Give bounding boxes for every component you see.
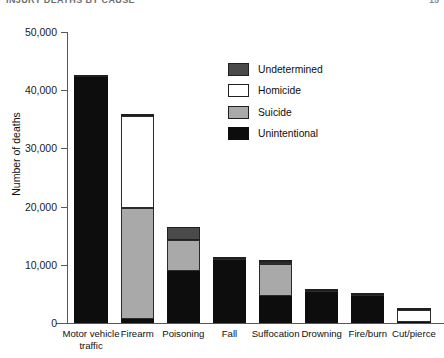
y-axis-tick-label: 10,000: [25, 259, 57, 271]
bar-segment-homicide: [259, 262, 292, 264]
bar-segment-undetermined: [121, 114, 154, 116]
bar-segment-unintentional: [305, 292, 338, 323]
y-axis-tick: [61, 265, 67, 266]
header-title: INJURY DEATHS BY CAUSE: [6, 0, 135, 5]
legend-swatch-homicide: [228, 84, 249, 97]
bar-segment-unintentional: [74, 77, 107, 323]
bar-segment-unintentional: [121, 319, 154, 323]
y-axis-tick-label: 50,000: [25, 26, 57, 38]
legend-swatch-undetermined: [228, 63, 249, 76]
bar-segment-suicide: [259, 264, 292, 296]
legend-label: Undetermined: [258, 64, 323, 75]
legend-item-undetermined: Undetermined: [228, 62, 323, 76]
bar-segment-unintentional: [351, 296, 384, 323]
x-axis-line: [56, 323, 444, 324]
legend-swatch-unintentional: [228, 127, 249, 140]
legend-swatch-suicide: [228, 106, 249, 119]
legend-label: Homicide: [258, 85, 301, 96]
bar-segment-homicide: [121, 116, 154, 209]
y-axis-tick-label: 40,000: [25, 84, 57, 96]
bar-poisoning: [167, 32, 200, 323]
bar-segment-undetermined: [167, 227, 200, 240]
legend-item-homicide: Homicide: [228, 84, 323, 98]
y-axis-tick: [61, 90, 67, 91]
bar-segment-unintentional: [213, 260, 246, 323]
y-axis-tick: [61, 148, 67, 149]
legend-item-unintentional: Unintentional: [228, 127, 323, 141]
bar-segment-undetermined: [259, 260, 292, 262]
y-axis-tick-label: 0: [51, 317, 57, 329]
bar-segment-suicide: [121, 208, 154, 319]
bar-segment-unintentional: [167, 271, 200, 323]
bar-segment-undetermined: [305, 289, 338, 291]
bar-firearm: [121, 32, 154, 323]
legend-label: Unintentional: [258, 128, 318, 139]
bar-motor-vehicle-traffic: [74, 32, 107, 323]
y-axis-tick: [61, 32, 67, 33]
bar-fire-burn: [351, 32, 384, 323]
header-page-number: 15: [429, 0, 439, 5]
bar-cut-pierce: [397, 32, 430, 323]
y-axis-title: Number of deaths: [10, 94, 22, 214]
y-axis-tick-label: 20,000: [25, 201, 57, 213]
bar-segment-unintentional: [259, 296, 292, 323]
bar-segment-undetermined: [397, 308, 430, 310]
y-axis-tick: [61, 323, 67, 324]
bar-segment-undetermined: [351, 293, 384, 295]
bar-segment-undetermined: [74, 75, 107, 77]
chart-legend: UndeterminedHomicideSuicideUnintentional: [228, 62, 323, 148]
y-axis-tick: [61, 207, 67, 208]
legend-label: Suicide: [258, 107, 292, 118]
injury-deaths-bar-chart-figure: INJURY DEATHS BY CAUSE 15 Number of deat…: [0, 0, 444, 358]
bar-segment-undetermined: [213, 257, 246, 259]
bar-segment-homicide: [397, 310, 430, 322]
legend-item-suicide: Suicide: [228, 105, 323, 119]
x-axis-label: Cut/pierce: [385, 328, 443, 340]
running-header: INJURY DEATHS BY CAUSE 15: [0, 0, 444, 9]
y-axis-tick-label: 30,000: [25, 142, 57, 154]
bar-segment-suicide: [167, 240, 200, 270]
